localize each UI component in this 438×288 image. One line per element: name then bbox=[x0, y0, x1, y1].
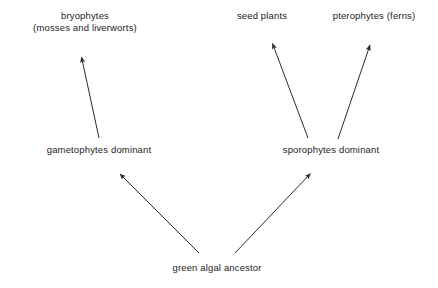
node-label-bryophytes-line1: bryophytes bbox=[18, 10, 152, 22]
node-label-seed-plants-line1: seed plants bbox=[222, 10, 302, 22]
node-label-sporophytes: sporophytes dominant bbox=[272, 144, 390, 156]
node-label-green-algal-ancestor: green algal ancestor bbox=[159, 262, 275, 274]
node-label-green-algal-ancestor-line1: green algal ancestor bbox=[159, 262, 275, 274]
diagram-canvas: bryophytes (mosses and liverworts) seed … bbox=[0, 0, 438, 288]
node-label-gametophytes-line1: gametophytes dominant bbox=[38, 144, 160, 156]
node-label-bryophytes-line2: (mosses and liverworts) bbox=[18, 22, 152, 34]
node-label-gametophytes: gametophytes dominant bbox=[38, 144, 160, 156]
arrow-sporophytes-to-seed-plants bbox=[273, 44, 309, 139]
arrow-ancestor-to-gametophytes bbox=[120, 174, 199, 253]
arrow-ancestor-to-sporophytes bbox=[235, 174, 311, 254]
node-label-sporophytes-line1: sporophytes dominant bbox=[272, 144, 390, 156]
node-label-pterophytes-line1: pterophytes (ferns) bbox=[318, 10, 430, 22]
node-label-seed-plants: seed plants bbox=[222, 10, 302, 22]
arrow-gametophytes-to-bryophytes bbox=[82, 57, 100, 138]
node-label-bryophytes: bryophytes (mosses and liverworts) bbox=[18, 10, 152, 34]
arrow-sporophytes-to-pterophytes bbox=[338, 45, 370, 139]
node-label-pterophytes: pterophytes (ferns) bbox=[318, 10, 430, 22]
